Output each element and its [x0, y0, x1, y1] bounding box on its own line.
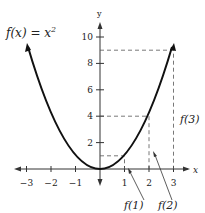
svg-text:10: 10: [82, 32, 94, 42]
f2-pointer-arrow-icon: [153, 151, 157, 157]
x-axis-right-arrow-icon: [183, 167, 190, 172]
curve-right-arrow-icon: [170, 43, 176, 51]
y-axis-down-arrow-icon: [98, 179, 103, 186]
function-graph: y x −3 −2 −1 1 2 3 2 4 6 8 10 f(x) = x2 …: [0, 0, 205, 213]
svg-text:−3: −3: [20, 178, 34, 188]
f2-label: f(2): [157, 199, 178, 212]
svg-text:−1: −1: [69, 178, 82, 188]
f1-label: f(1): [123, 199, 144, 212]
y-axis-up-arrow-icon: [98, 22, 103, 29]
svg-text:6: 6: [87, 85, 93, 95]
dashed-guides: [100, 50, 174, 169]
f1-pointer: [130, 172, 144, 200]
svg-text:−2: −2: [44, 178, 57, 188]
f3-label: f(3): [179, 113, 200, 126]
svg-text:4: 4: [87, 111, 93, 121]
x-axis-left-arrow-icon: [14, 167, 21, 172]
svg-text:2: 2: [146, 178, 152, 188]
x-axis-label: x: [193, 165, 198, 175]
svg-text:8: 8: [87, 58, 93, 68]
function-label: f(x) = x2: [5, 25, 56, 40]
y-axis-label: y: [96, 9, 102, 18]
svg-text:2: 2: [87, 138, 93, 148]
svg-text:3: 3: [171, 178, 177, 188]
graph-canvas: y x −3 −2 −1 1 2 3 2 4 6 8 10 f(x) = x2 …: [0, 0, 205, 213]
svg-text:1: 1: [122, 178, 128, 188]
y-tick-labels: 2 4 6 8 10: [82, 32, 94, 148]
f2-pointer: [155, 155, 172, 200]
